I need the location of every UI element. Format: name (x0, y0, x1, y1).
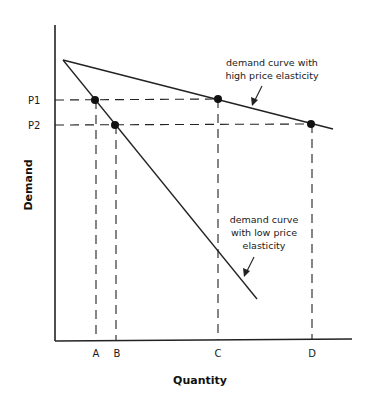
point-b (111, 121, 119, 129)
high-elasticity-annotation-line2: high price elasticity (225, 70, 319, 81)
x-axis (55, 339, 352, 341)
low-elasticity-arrow-icon (243, 257, 254, 277)
point-a (91, 96, 99, 104)
p1-price-line (55, 99, 218, 100)
high-elasticity-arrow-icon (251, 86, 262, 106)
d-label: D (308, 348, 316, 359)
x-axis-title: Quantity (173, 374, 227, 387)
p1-label: P1 (28, 95, 40, 106)
elasticity-diagram: P1 P2 A B C D Quantity Demand demand cur… (0, 0, 370, 409)
c-label: C (215, 348, 222, 359)
p2-price-line (55, 124, 312, 125)
high-elasticity-annotation-line1: demand curve with (226, 57, 318, 68)
p2-label: P2 (28, 120, 40, 131)
low-elasticity-annotation-line2: with low price (231, 227, 297, 238)
point-c (214, 95, 222, 103)
b-label: B (114, 348, 121, 359)
a-label: A (93, 348, 100, 359)
y-axis-title: Demand (22, 159, 35, 210)
low-elasticity-demand-curve (63, 60, 257, 299)
low-elasticity-annotation-line3: elasticity (243, 240, 286, 251)
low-elasticity-annotation-line1: demand curve (230, 214, 299, 225)
point-d (307, 120, 315, 128)
